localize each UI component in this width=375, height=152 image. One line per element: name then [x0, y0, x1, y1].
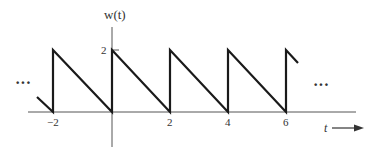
x-tick-label-neg2: −2 — [47, 116, 59, 128]
sawtooth-diagram: w(t) 2 −2 2 4 6 ··· ··· t — [0, 0, 375, 152]
x-tick-label-4: 4 — [225, 116, 231, 128]
x-axis-label: t — [324, 121, 328, 135]
x-tick-label-6: 6 — [283, 116, 289, 128]
diagram-canvas: w(t) 2 −2 2 4 6 ··· ··· t — [0, 0, 375, 152]
ellipsis-left: ··· — [15, 74, 31, 91]
x-tick-label-2: 2 — [167, 116, 173, 128]
ellipsis-right: ··· — [313, 76, 329, 93]
y-tick-label: 2 — [101, 44, 107, 56]
y-axis-label: w(t) — [104, 7, 126, 22]
sawtooth-waveform — [37, 50, 298, 112]
arrow-right-icon — [332, 125, 364, 132]
